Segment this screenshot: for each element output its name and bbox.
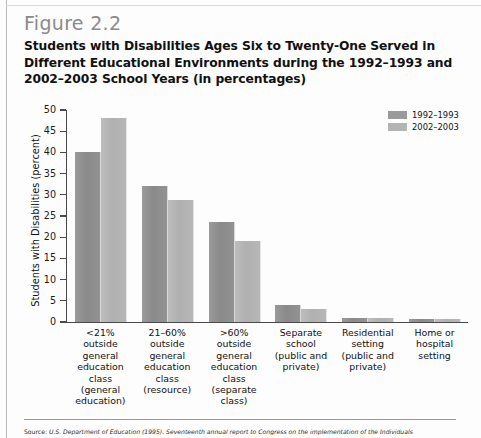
x-axis-label-line: class [67, 373, 134, 384]
x-axis-label-line: private) [268, 361, 335, 372]
y-axis-tick [60, 173, 66, 174]
x-axis-label-line: <21% [67, 327, 134, 338]
y-axis-tick [60, 109, 66, 110]
y-axis-tick [60, 279, 66, 280]
y-axis-tick [60, 215, 66, 216]
legend-entry: 1992–1993 [388, 110, 459, 120]
y-axis-tick-label: 40 [30, 146, 56, 157]
x-axis-label-line: hospital [401, 338, 468, 349]
source-text: U.S. Department of Education (1995). Sev… [47, 428, 413, 435]
bar [101, 118, 127, 322]
bar-group [67, 110, 134, 322]
legend-label: 2002–2003 [412, 122, 459, 132]
x-axis-category-label: <21%outsidegeneraleducationclass(general… [67, 327, 134, 407]
y-axis-tick-label: 25 [30, 210, 56, 221]
y-axis-tick-label: 35 [30, 168, 56, 179]
x-axis-label-line: outside [67, 338, 134, 349]
bar-group [334, 110, 401, 322]
x-axis-category-label: Home orhospitalsetting [401, 327, 468, 361]
x-axis-label-line: education [67, 361, 134, 372]
bar-group [134, 110, 201, 322]
x-axis-label-line: (resource) [134, 384, 201, 395]
x-axis-label-line: (public and [268, 350, 335, 361]
source-divider [24, 419, 456, 420]
y-axis-tick-label: 30 [30, 189, 56, 200]
x-axis-label-line: general [201, 350, 268, 361]
x-axis-label-line: class [201, 373, 268, 384]
x-axis-label-line: setting [334, 338, 401, 349]
y-axis-tick-label: 10 [30, 274, 56, 285]
x-axis-category-label: Residentialsetting(public andprivate) [334, 327, 401, 373]
x-axis-category-label: 21–60%outsidegeneraleducationclass(resou… [134, 327, 201, 395]
bar-group [268, 110, 335, 322]
x-axis-label-line: Separate [268, 327, 335, 338]
chart-legend: 1992–19932002–2003 [388, 110, 459, 134]
figure-page: Figure 2.2 Students with Disabilities Ag… [0, 0, 481, 438]
x-axis-label-line: (public and [334, 350, 401, 361]
bars-layer [67, 110, 468, 322]
bar [435, 319, 461, 322]
source-lead: Source: [24, 428, 47, 435]
x-axis-label-line: education [134, 361, 201, 372]
x-axis-label-line: (separate [201, 384, 268, 395]
x-axis-label-line: 21–60% [134, 327, 201, 338]
y-axis-tick-label: 20 [30, 231, 56, 242]
bar-group [201, 110, 268, 322]
y-axis-tick [60, 131, 66, 132]
x-axis-label-line: setting [401, 350, 468, 361]
legend-entry: 2002–2003 [388, 122, 459, 132]
x-axis-label-line: school [268, 338, 335, 349]
x-axis-label-line: private) [334, 361, 401, 372]
bar [368, 318, 394, 322]
bar [142, 186, 168, 322]
y-axis-tick-label: 45 [30, 125, 56, 136]
y-axis-tick-label: 5 [30, 295, 56, 306]
bar-chart: Students with Disabilities (percent) 051… [0, 0, 481, 438]
x-axis-category-label: >60%outsidegeneraleducationclass(separat… [201, 327, 268, 407]
x-axis-label-line: education [201, 361, 268, 372]
x-axis-label-line: outside [201, 338, 268, 349]
bar [342, 318, 368, 322]
bar [235, 241, 261, 322]
x-axis-line [66, 322, 468, 323]
x-axis-label-line: class [134, 373, 201, 384]
y-axis-tick [60, 194, 66, 195]
x-axis-category-label: Separateschool(public andprivate) [268, 327, 335, 373]
x-axis-label-line: general [134, 350, 201, 361]
source-note: Source: U.S. Department of Education (19… [24, 428, 472, 435]
y-axis-tick-label: 0 [30, 316, 56, 327]
bar-group [401, 110, 468, 322]
bar [275, 305, 301, 322]
x-axis-label-line: Residential [334, 327, 401, 338]
legend-swatch [388, 111, 407, 119]
y-axis-tick-label: 15 [30, 252, 56, 263]
bar [75, 152, 101, 322]
x-axis-label-line: education) [67, 395, 134, 406]
y-axis-tick [60, 321, 66, 322]
x-axis-label-line: class) [201, 395, 268, 406]
x-axis-label-line: >60% [201, 327, 268, 338]
y-axis-tick [60, 237, 66, 238]
y-axis-tick [60, 152, 66, 153]
legend-swatch [388, 123, 407, 131]
x-axis-label-line: Home or [401, 327, 468, 338]
y-axis-tick [60, 258, 66, 259]
x-axis-label-line: outside [134, 338, 201, 349]
legend-label: 1992–1993 [412, 110, 459, 120]
y-axis-tick [60, 300, 66, 301]
bar [168, 200, 194, 322]
bar [409, 319, 435, 322]
y-axis-tick-label: 50 [30, 104, 56, 115]
bar [209, 222, 235, 322]
x-axis-label-line: general [67, 350, 134, 361]
x-axis-label-line: (general [67, 384, 134, 395]
bar [301, 309, 327, 322]
